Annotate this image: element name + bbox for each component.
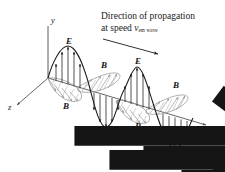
vector-arrow-icon xyxy=(135,53,143,57)
vector-label-b-4: B xyxy=(135,121,141,131)
vector-label-e-2: E xyxy=(102,130,108,140)
vector-arrow-icon xyxy=(63,98,71,102)
vector-arrow-icon xyxy=(101,57,109,61)
caption-line-2-prefix: at speed xyxy=(101,23,134,33)
vector-label-b-2: B xyxy=(101,60,107,70)
vector-label-e-1: E xyxy=(66,36,72,46)
vector-arrow-icon xyxy=(102,127,110,131)
vector-label-b-1: B xyxy=(63,101,69,111)
vector-label-b-3: B xyxy=(173,80,179,90)
vector-arrow-icon xyxy=(66,33,74,37)
propagation-caption: Direction of propagation at speed vem wa… xyxy=(101,11,195,35)
em-wave-figure: Direction of propagation at speed vem wa… xyxy=(0,0,225,172)
axis-label-z: z xyxy=(8,102,11,112)
vector-label-e-3: E xyxy=(135,56,141,66)
caption-line-1: Direction of propagation xyxy=(101,11,195,21)
vector-arrow-icon xyxy=(173,150,181,154)
axis-z xyxy=(17,78,48,105)
vector-arrow-icon xyxy=(135,118,143,122)
vector-label-e-4: E xyxy=(173,153,179,163)
axis-label-y: y xyxy=(51,15,55,25)
vector-arrow-icon xyxy=(173,77,181,81)
